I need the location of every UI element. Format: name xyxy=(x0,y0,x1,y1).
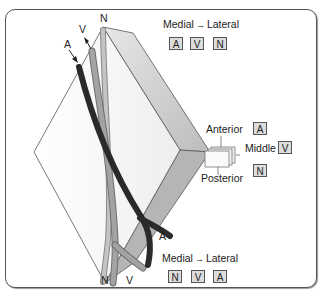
middle-box: V xyxy=(278,141,292,154)
layer-stack-icon xyxy=(205,136,240,175)
middle-label: Middle xyxy=(245,143,276,154)
lateral-text: Lateral xyxy=(207,18,239,30)
vein-label-top: V xyxy=(79,24,86,35)
medial-text: Medial xyxy=(163,18,194,30)
anterior-label: Anterior xyxy=(206,124,243,135)
arrow-right-icon: → xyxy=(196,21,205,30)
arrow-right-icon: → xyxy=(195,255,204,264)
anterior-box: A xyxy=(253,122,267,135)
bottom-order-heading: Medial→Lateral xyxy=(162,253,238,264)
posterior-label: Posterior xyxy=(201,173,243,184)
medial-text: Medial xyxy=(162,252,193,264)
top-order-box-2: V xyxy=(190,37,204,50)
bottom-order-box-1: N xyxy=(168,270,182,283)
nerve-label-bottom: N xyxy=(101,275,109,286)
bottom-order-box-2: V xyxy=(191,270,205,283)
posterior-box: N xyxy=(253,164,267,177)
top-order-box-3: N xyxy=(213,37,227,50)
top-order-box-1: A xyxy=(169,37,183,50)
artery-label-top: A xyxy=(64,39,71,50)
nerve-label-top: N xyxy=(100,13,108,24)
top-order-heading: Medial→Lateral xyxy=(163,19,239,30)
vein-label-bottom: V xyxy=(126,275,133,286)
lateral-text: Lateral xyxy=(206,252,238,264)
artery-label-bottom: A xyxy=(159,231,166,242)
bottom-order-box-3: A xyxy=(213,270,227,283)
